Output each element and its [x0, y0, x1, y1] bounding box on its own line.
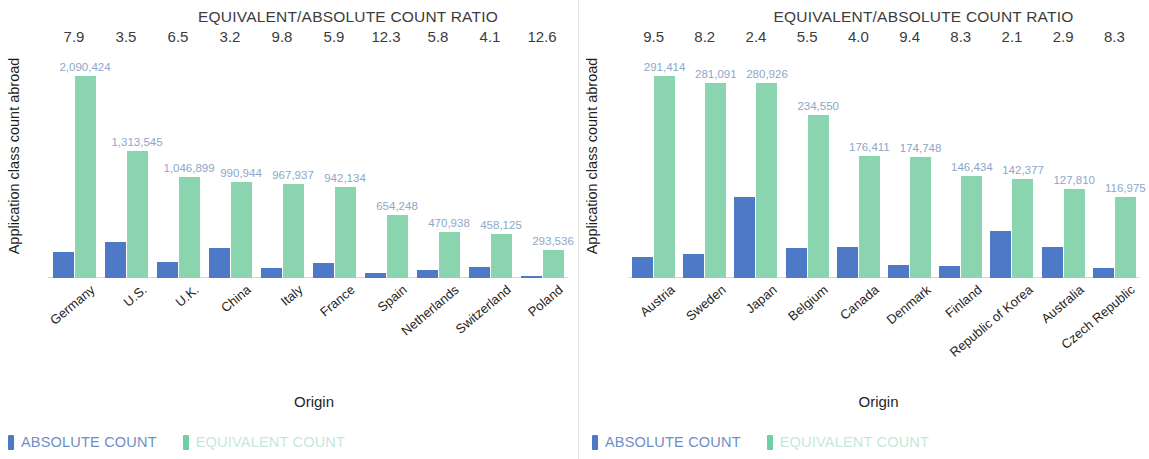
bar-absolute[interactable]	[888, 265, 909, 278]
bar-absolute[interactable]	[53, 252, 74, 278]
legend-swatch-absolute-icon	[8, 435, 14, 450]
bar-absolute[interactable]	[939, 266, 960, 278]
bars	[986, 76, 1037, 278]
bar-equivalent[interactable]	[283, 184, 304, 278]
legend-item-equivalent[interactable]: EQUIVALENT COUNT	[183, 434, 345, 450]
bar-absolute[interactable]	[365, 273, 386, 278]
bars	[935, 76, 986, 278]
bars	[412, 76, 464, 278]
bar-equivalent[interactable]	[179, 177, 200, 278]
bar-equivalent[interactable]	[756, 83, 777, 278]
bar-absolute[interactable]	[157, 262, 178, 278]
ratio-value: 8.3	[950, 28, 971, 45]
bar-absolute[interactable]	[990, 231, 1011, 278]
x-tick-label: Finland	[942, 282, 984, 321]
x-tick-label: China	[218, 282, 254, 315]
chart-panel-right: EQUIVALENT/ABSOLUTE COUNT RATIO Applicat…	[578, 0, 1149, 459]
bar-absolute[interactable]	[734, 197, 755, 278]
x-tick-label: Sweden	[683, 282, 729, 324]
bar-group: 4.1	[464, 28, 516, 278]
bar-group: 12.3	[360, 28, 412, 278]
ratio-value: 4.0	[848, 28, 869, 45]
bar-group: 4.0	[833, 28, 884, 278]
ratio-value: 5.8	[428, 28, 449, 45]
y-axis-label: Application class count abroad	[2, 22, 26, 290]
bars	[833, 76, 884, 278]
bar-group: 3.2	[204, 28, 256, 278]
plot-area-right: 9.5291,4148.2281,0912.4280,9265.5234,550…	[628, 28, 1140, 278]
ratio-value: 7.9	[64, 28, 85, 45]
bar-absolute[interactable]	[1042, 247, 1063, 278]
bar-equivalent[interactable]	[1064, 189, 1085, 278]
bar-equivalent[interactable]	[387, 215, 408, 278]
bar-equivalent[interactable]	[1012, 179, 1033, 278]
x-tick-label: Switzerland	[453, 282, 514, 337]
bar-equivalent[interactable]	[705, 83, 726, 278]
ratio-value: 12.6	[527, 28, 556, 45]
bars	[884, 76, 935, 278]
bar-equivalent[interactable]	[543, 250, 564, 278]
y-axis-label-text: Application class count abroad	[6, 58, 22, 255]
bar-group: 9.8	[256, 28, 308, 278]
bar-equivalent[interactable]	[491, 234, 512, 278]
ratio-value: 6.5	[168, 28, 189, 45]
chart-panel-left: EQUIVALENT/ABSOLUTE COUNT RATIO Applicat…	[0, 0, 578, 459]
legend-label-absolute: ABSOLUTE COUNT	[605, 434, 741, 450]
x-tick-label: France	[317, 282, 358, 320]
bar-group: 2.9	[1038, 28, 1089, 278]
x-tick-label: Italy	[278, 282, 306, 309]
bar-absolute[interactable]	[1093, 268, 1114, 278]
bar-absolute[interactable]	[313, 263, 334, 278]
bar-group: 5.8	[412, 28, 464, 278]
x-axis-label: Origin	[578, 393, 1149, 410]
ratio-value: 8.2	[694, 28, 715, 45]
legend-item-absolute[interactable]: ABSOLUTE COUNT	[8, 434, 157, 450]
ratio-value: 3.2	[220, 28, 241, 45]
bar-equivalent[interactable]	[1115, 197, 1136, 278]
bar-equivalent[interactable]	[335, 187, 356, 278]
bar-absolute[interactable]	[209, 248, 230, 278]
bar-equivalent[interactable]	[859, 156, 880, 278]
legend-item-equivalent[interactable]: EQUIVALENT COUNT	[767, 434, 929, 450]
x-tick-label: Germany	[47, 282, 98, 328]
bar-equivalent[interactable]	[910, 157, 931, 278]
bar-absolute[interactable]	[417, 270, 438, 278]
bar-equivalent[interactable]	[808, 115, 829, 278]
bar-absolute[interactable]	[837, 247, 858, 278]
x-tick-label: Poland	[525, 282, 566, 320]
bar-equivalent[interactable]	[75, 76, 96, 278]
ratio-title: EQUIVALENT/ABSOLUTE COUNT RATIO	[0, 8, 578, 26]
bar-equivalent[interactable]	[127, 151, 148, 278]
bar-absolute[interactable]	[683, 254, 704, 278]
x-tick-label: Canada	[837, 282, 882, 323]
x-tick-label: Belgium	[785, 282, 831, 324]
ratio-value: 9.4	[899, 28, 920, 45]
legend-label-equivalent: EQUIVALENT COUNT	[196, 434, 345, 450]
legend-item-absolute[interactable]: ABSOLUTE COUNT	[592, 434, 741, 450]
bar-group: 8.3	[1089, 28, 1140, 278]
bar-equivalent[interactable]	[439, 232, 460, 278]
bars	[100, 76, 152, 278]
bar-group: 2.1	[986, 28, 1037, 278]
ratio-value: 9.8	[272, 28, 293, 45]
bars	[152, 76, 204, 278]
legend-left: ABSOLUTE COUNT EQUIVALENT COUNT	[8, 434, 345, 450]
bar-equivalent[interactable]	[231, 182, 252, 278]
bar-group: 5.5	[782, 28, 833, 278]
legend-label-equivalent: EQUIVALENT COUNT	[780, 434, 929, 450]
bar-absolute[interactable]	[469, 267, 490, 278]
bar-absolute[interactable]	[105, 242, 126, 278]
bar-absolute[interactable]	[521, 276, 542, 278]
bar-absolute[interactable]	[632, 257, 653, 278]
bar-equivalent[interactable]	[961, 176, 982, 278]
ratio-value: 2.4	[746, 28, 767, 45]
bar-equivalent[interactable]	[654, 76, 675, 278]
ratio-value: 5.9	[324, 28, 345, 45]
bar-absolute[interactable]	[786, 248, 807, 278]
bar-absolute[interactable]	[261, 268, 282, 278]
x-tick-label: U.S.	[121, 282, 150, 310]
bar-group: 2.4	[730, 28, 781, 278]
legend-right: ABSOLUTE COUNT EQUIVALENT COUNT	[592, 434, 929, 450]
bar-value-label: 293,536	[532, 235, 574, 247]
bar-group: 8.3	[935, 28, 986, 278]
